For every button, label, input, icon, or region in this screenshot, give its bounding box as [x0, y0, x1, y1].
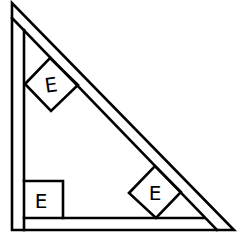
triangle-diagram: E E E	[0, 0, 250, 243]
box-lower-right-diamond: E	[129, 166, 181, 218]
box-label: E	[35, 189, 48, 213]
box-label: E	[43, 72, 59, 98]
box-upper-left-diamond: E	[25, 58, 78, 111]
box-label: E	[149, 181, 162, 205]
box-bottom-left-square: E	[24, 181, 63, 218]
